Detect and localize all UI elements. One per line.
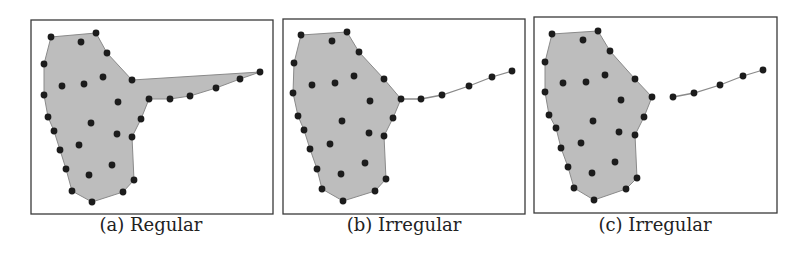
data-point bbox=[641, 114, 648, 121]
data-point bbox=[362, 160, 369, 167]
data-point bbox=[63, 166, 70, 173]
data-point bbox=[129, 77, 136, 84]
data-point bbox=[51, 128, 58, 135]
data-point bbox=[560, 80, 567, 87]
caption-b: (b) Irregular bbox=[304, 214, 504, 236]
data-point bbox=[344, 29, 351, 36]
data-point bbox=[602, 72, 609, 79]
data-point bbox=[590, 118, 597, 125]
data-point bbox=[670, 94, 677, 101]
data-point bbox=[351, 73, 358, 80]
data-point bbox=[717, 82, 724, 89]
data-point bbox=[632, 76, 639, 83]
data-point bbox=[418, 96, 425, 103]
data-point bbox=[565, 164, 572, 171]
data-point bbox=[381, 76, 388, 83]
data-point bbox=[381, 133, 388, 140]
data-point bbox=[69, 188, 76, 195]
data-point bbox=[78, 39, 85, 46]
data-point bbox=[607, 48, 614, 55]
data-point bbox=[295, 113, 302, 120]
caption-a: (a) Regular bbox=[51, 214, 251, 236]
data-point bbox=[290, 90, 297, 97]
panel-b bbox=[283, 19, 525, 214]
data-point bbox=[691, 90, 698, 97]
data-point bbox=[89, 199, 96, 206]
data-point bbox=[616, 129, 623, 136]
data-point bbox=[76, 142, 83, 149]
data-point bbox=[356, 49, 363, 56]
data-point bbox=[291, 60, 298, 67]
data-point bbox=[571, 185, 578, 192]
data-point bbox=[760, 67, 767, 74]
data-point bbox=[57, 147, 64, 154]
data-point bbox=[59, 83, 66, 90]
data-point bbox=[307, 146, 314, 153]
data-point bbox=[558, 145, 565, 152]
data-point bbox=[329, 38, 336, 45]
data-point bbox=[439, 92, 446, 99]
data-point bbox=[93, 30, 100, 37]
data-point bbox=[104, 50, 111, 57]
data-point bbox=[86, 172, 93, 179]
data-point bbox=[88, 120, 95, 127]
data-point bbox=[257, 69, 264, 76]
caption-c: (c) Irregular bbox=[555, 214, 755, 236]
data-point bbox=[634, 175, 641, 182]
panel-a bbox=[31, 20, 273, 214]
data-point bbox=[131, 177, 138, 184]
data-point bbox=[327, 141, 334, 148]
data-point bbox=[309, 82, 316, 89]
data-point bbox=[213, 85, 220, 92]
data-point bbox=[114, 131, 121, 138]
data-point bbox=[591, 197, 598, 204]
data-point bbox=[237, 76, 244, 83]
data-point bbox=[553, 125, 560, 132]
data-point bbox=[100, 74, 107, 81]
data-point bbox=[48, 34, 55, 41]
data-point bbox=[319, 186, 326, 193]
data-point bbox=[129, 134, 136, 141]
data-point bbox=[612, 159, 619, 166]
data-point bbox=[595, 28, 602, 35]
data-point bbox=[372, 188, 379, 195]
data-point bbox=[649, 94, 656, 101]
data-point bbox=[489, 74, 496, 81]
data-point bbox=[41, 61, 48, 68]
data-point bbox=[623, 186, 630, 193]
data-point bbox=[542, 59, 549, 66]
data-point bbox=[383, 176, 390, 183]
data-point bbox=[580, 37, 587, 44]
data-point bbox=[583, 79, 590, 86]
data-point bbox=[466, 83, 473, 90]
data-point bbox=[339, 118, 346, 125]
data-point bbox=[314, 166, 321, 173]
panel-c bbox=[534, 17, 777, 213]
data-point bbox=[45, 114, 52, 121]
data-point bbox=[120, 189, 127, 196]
data-point bbox=[332, 80, 339, 87]
data-point bbox=[632, 132, 639, 139]
data-point bbox=[618, 97, 625, 104]
data-point bbox=[109, 162, 116, 169]
data-point bbox=[546, 112, 553, 119]
data-point bbox=[146, 96, 153, 103]
data-point bbox=[340, 198, 347, 205]
data-point bbox=[390, 115, 397, 122]
data-point bbox=[398, 96, 405, 103]
data-point bbox=[366, 130, 373, 137]
data-point bbox=[115, 99, 122, 106]
data-point bbox=[301, 127, 308, 134]
data-point bbox=[367, 98, 374, 105]
data-point bbox=[509, 68, 516, 75]
data-point bbox=[298, 32, 305, 39]
data-point bbox=[542, 89, 549, 96]
data-point bbox=[578, 140, 585, 147]
data-point bbox=[338, 171, 345, 178]
data-point bbox=[41, 92, 48, 99]
data-point bbox=[138, 116, 145, 123]
data-point bbox=[167, 96, 174, 103]
data-point bbox=[81, 81, 88, 88]
data-point bbox=[549, 31, 556, 38]
data-point bbox=[740, 73, 747, 80]
